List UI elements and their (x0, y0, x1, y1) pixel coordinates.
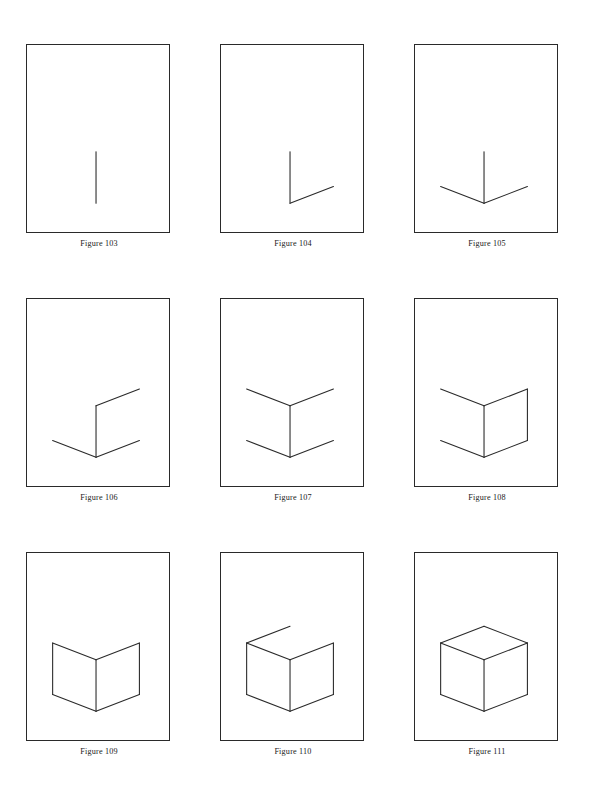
figure-drawing (415, 299, 557, 486)
figure-frame (220, 298, 364, 487)
figure-cell: Figure 111 (414, 552, 560, 756)
edge-top-left (247, 389, 290, 406)
figure-cell: Figure 105 (414, 44, 560, 248)
edge-bottom-left (441, 440, 484, 457)
edge-top-right (96, 643, 139, 660)
figure-drawing (221, 45, 363, 232)
edge-bottom-right (484, 694, 527, 711)
edge-bottom-right (290, 440, 333, 457)
figure-cell: Figure 110 (220, 552, 366, 756)
figure-caption: Figure 105 (414, 239, 560, 248)
edge-top-right (290, 643, 333, 660)
edge-bottom-right (290, 694, 333, 711)
edge-bottom-right (484, 186, 527, 203)
figure-cell: Figure 104 (220, 44, 366, 248)
figure-caption: Figure 104 (220, 239, 366, 248)
edge-bottom-right (96, 694, 139, 711)
edge-bottom-left (247, 694, 290, 711)
edge-top-right (290, 389, 333, 406)
figure-cell: Figure 108 (414, 298, 560, 502)
edge-bottom-left (441, 694, 484, 711)
edge-top-right (96, 389, 139, 406)
edge-top-left (441, 643, 484, 660)
figure-cell: Figure 106 (26, 298, 172, 502)
edge-bottom-left (441, 186, 484, 203)
figure-drawing (27, 45, 169, 232)
figure-cell: Figure 103 (26, 44, 172, 248)
figure-caption: Figure 103 (26, 239, 172, 248)
figure-frame (26, 552, 170, 741)
edge-top-right (484, 643, 527, 660)
figure-drawing (27, 553, 169, 740)
figure-caption: Figure 110 (220, 747, 366, 756)
figure-frame (220, 44, 364, 233)
figure-cell: Figure 109 (26, 552, 172, 756)
figure-caption: Figure 109 (26, 747, 172, 756)
edge-top-face-left (247, 626, 290, 643)
edge-bottom-right (290, 186, 333, 203)
figure-drawing (415, 45, 557, 232)
figure-caption: Figure 106 (26, 493, 172, 502)
figure-caption: Figure 107 (220, 493, 366, 502)
figure-frame (26, 298, 170, 487)
edge-top-right (484, 389, 527, 406)
edge-bottom-left (53, 440, 96, 457)
figure-cell: Figure 107 (220, 298, 366, 502)
figure-caption: Figure 111 (414, 747, 560, 756)
figure-drawing (415, 553, 557, 740)
figure-drawing (27, 299, 169, 486)
figure-grid: Figure 103Figure 104Figure 105Figure 106… (0, 0, 590, 798)
edge-top-left (247, 643, 290, 660)
figure-frame (26, 44, 170, 233)
edge-bottom-left (53, 694, 96, 711)
figure-sheet: Figure 103Figure 104Figure 105Figure 106… (0, 0, 590, 798)
edge-top-left (441, 389, 484, 406)
edge-top-face-left (441, 626, 484, 643)
figure-drawing (221, 299, 363, 486)
figure-frame (414, 298, 558, 487)
edge-top-left (53, 643, 96, 660)
figure-frame (414, 552, 558, 741)
edge-top-face-right (484, 626, 527, 643)
edge-bottom-right (484, 440, 527, 457)
edge-bottom-left (247, 440, 290, 457)
figure-frame (220, 552, 364, 741)
edge-bottom-right (96, 440, 139, 457)
figure-drawing (221, 553, 363, 740)
figure-caption: Figure 108 (414, 493, 560, 502)
figure-frame (414, 44, 558, 233)
